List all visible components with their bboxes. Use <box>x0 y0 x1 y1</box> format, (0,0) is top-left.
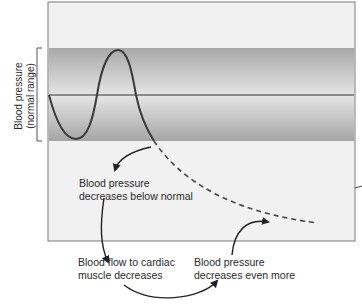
step1-label: Blood pressure decreases below normal <box>79 177 193 202</box>
step3-label: Blood pressure decreases even more <box>194 256 295 281</box>
step1-label-line1: Blood pressure <box>79 177 193 190</box>
blood-pressure-diagram <box>0 0 362 306</box>
y-axis-label-line1: Blood pressure <box>13 41 25 151</box>
y-axis-label: Blood pressure (normal range) <box>13 41 37 151</box>
step2-label-line1: Blood flow to cardiac <box>78 256 175 269</box>
step3-label-line1: Blood pressure <box>194 256 295 269</box>
y-axis-label-line2: (normal range) <box>25 41 37 151</box>
step1-label-line2: decreases below normal <box>79 190 193 203</box>
step2-label: Blood flow to cardiac muscle decreases <box>78 256 175 281</box>
edge-tick <box>355 186 362 188</box>
step3-label-line2: decreases even more <box>194 269 295 282</box>
normal-range-bracket <box>37 48 42 141</box>
step2-label-line2: muscle decreases <box>78 269 175 282</box>
arrow-step2-to-step3 <box>124 281 217 298</box>
normal-range-band-upper <box>49 48 354 95</box>
